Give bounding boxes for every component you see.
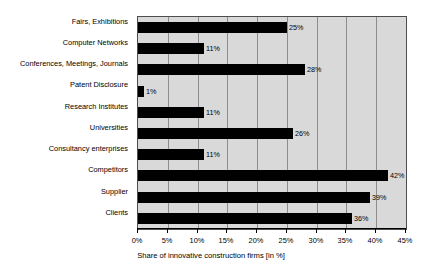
category-label: Universities: [90, 122, 128, 133]
bar-value-label: 42%: [390, 170, 404, 181]
category-label: Patent Disclosure: [70, 79, 128, 90]
bar-value-label: 1%: [146, 86, 156, 97]
x-axis-tick: [256, 229, 257, 233]
category-label: Supplier: [101, 186, 128, 197]
category-label: Computer Networks: [63, 37, 128, 48]
bar-value-label: 11%: [206, 149, 220, 160]
x-axis-tick: [167, 229, 168, 233]
x-axis-tick-label: 0%: [132, 235, 143, 246]
x-axis-tick: [316, 229, 317, 233]
x-axis-tick: [345, 229, 346, 233]
bar: [138, 170, 388, 181]
category-label: Conferences, Meetings, Journals: [20, 58, 128, 69]
bar: [138, 213, 352, 224]
x-axis-title: Share of innovative construction firms […: [0, 250, 422, 261]
bar: [138, 86, 144, 97]
bar: [138, 22, 287, 33]
x-axis-tick: [226, 229, 227, 233]
x-axis-tick: [405, 229, 406, 233]
bar: [138, 64, 305, 75]
x-axis-tick-label: 5%: [162, 235, 173, 246]
bar: [138, 128, 293, 139]
category-label: Clients: [105, 207, 128, 218]
x-axis-tick: [375, 229, 376, 233]
x-axis-tick: [137, 229, 138, 233]
x-axis-tick: [286, 229, 287, 233]
bar-value-label: 28%: [307, 64, 321, 75]
x-axis-line: [137, 228, 406, 229]
bar-value-label: 11%: [206, 43, 220, 54]
bar-value-label: 26%: [295, 128, 309, 139]
bar-value-label: 36%: [354, 213, 368, 224]
bar-value-label: 39%: [372, 192, 386, 203]
bar: [138, 107, 204, 118]
category-label: Competitors: [88, 164, 128, 175]
category-axis-labels: Fairs, Exhibitions Computer Networks Con…: [0, 16, 133, 228]
bar: [138, 192, 370, 203]
category-label: Research Institutes: [65, 101, 128, 112]
x-axis-tick-label: 40%: [368, 235, 383, 246]
bar-chart: Fairs, Exhibitions Computer Networks Con…: [0, 0, 422, 272]
bar: [138, 149, 204, 160]
x-axis-tick-label: 25%: [279, 235, 294, 246]
plot-area: 25%11%28%1%11%26%11%42%39%36%: [137, 16, 407, 230]
x-axis-tick-label: 15%: [219, 235, 234, 246]
x-axis-tick-label: 30%: [309, 235, 324, 246]
bar-value-label: 11%: [206, 107, 220, 118]
category-label: Fairs, Exhibitions: [72, 16, 128, 27]
x-axis-tick-label: 10%: [190, 235, 205, 246]
x-axis-tick: [197, 229, 198, 233]
x-axis-tick-label: 45%: [398, 235, 413, 246]
x-axis-tick-label: 35%: [338, 235, 353, 246]
bar: [138, 43, 204, 54]
bar-value-label: 25%: [289, 22, 303, 33]
x-axis-tick-label: 20%: [249, 235, 264, 246]
category-label: Consultancy enterprises: [49, 143, 128, 154]
